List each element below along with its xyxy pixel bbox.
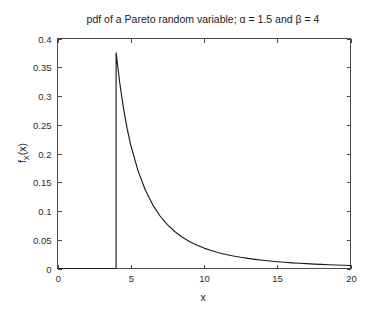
chart-title: pdf of a Pareto random variable; α = 1.5… bbox=[87, 13, 320, 25]
x-tick-label: 20 bbox=[346, 273, 357, 284]
y-tick-label: 0.4 bbox=[38, 34, 51, 45]
x-tick-label: 5 bbox=[129, 273, 134, 284]
x-tick-label: 15 bbox=[272, 273, 283, 284]
x-axis-title: x bbox=[200, 291, 206, 303]
y-tick-label: 0.2 bbox=[38, 149, 51, 160]
y-tick-label: 0.25 bbox=[33, 120, 52, 131]
chart-figure: pdf of a Pareto random variable; α = 1.5… bbox=[0, 0, 380, 313]
x-tick-label: 10 bbox=[199, 273, 210, 284]
y-tick-label: 0.1 bbox=[38, 206, 51, 217]
y-tick-label: 0.05 bbox=[33, 235, 52, 246]
y-tick-label: 0.3 bbox=[38, 91, 51, 102]
pareto-pdf-chart: pdf of a Pareto random variable; α = 1.5… bbox=[0, 0, 380, 313]
y-tick-label: 0.15 bbox=[33, 177, 52, 188]
y-axis-title-arg: (x) bbox=[16, 143, 28, 155]
y-tick-label: 0.35 bbox=[33, 62, 52, 73]
y-tick-label: 0 bbox=[46, 264, 51, 275]
x-tick-label: 0 bbox=[56, 273, 61, 284]
